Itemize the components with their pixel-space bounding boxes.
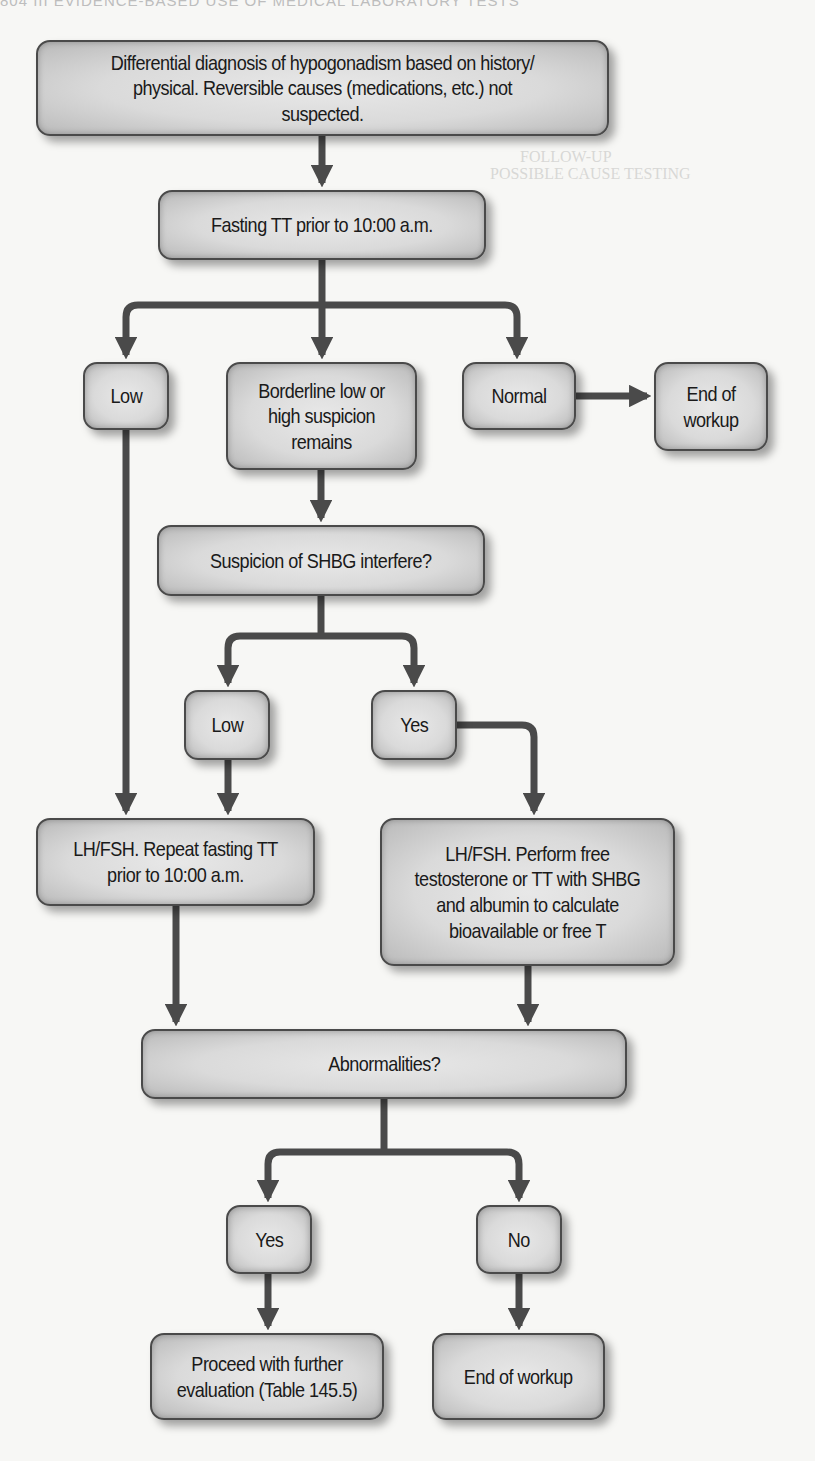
node-abnormalities-label: Abnormalities? xyxy=(328,1051,440,1077)
node-low-2: Low xyxy=(184,690,270,760)
node-proceed-label: Proceed with further evaluation (Table 1… xyxy=(173,1351,360,1402)
node-normal: Normal xyxy=(462,362,576,430)
node-fasting-tt-label: Fasting TT prior to 10:00 a.m. xyxy=(211,212,433,238)
node-shbg-label: Suspicion of SHBG interfere? xyxy=(210,548,431,574)
node-start: Differential diagnosis of hypogonadism b… xyxy=(36,40,609,136)
node-shbg: Suspicion of SHBG interfere? xyxy=(157,525,485,596)
node-lh-fsh-repeat: LH/FSH. Repeat fasting TT prior to 10:00… xyxy=(36,818,315,906)
edge-fasting-to-low xyxy=(126,305,322,355)
node-normal-label: Normal xyxy=(491,383,546,409)
edge-shbg-to-yes xyxy=(321,636,414,683)
edge-shbg-to-low xyxy=(228,636,321,683)
node-low-2-label: Low xyxy=(211,712,243,738)
edge-abnormal-to-yes xyxy=(268,1152,384,1198)
node-proceed: Proceed with further evaluation (Table 1… xyxy=(150,1333,384,1420)
node-end-workup-1: End of workup xyxy=(654,362,768,451)
node-yes-2: Yes xyxy=(226,1205,312,1274)
node-lh-fsh-free: LH/FSH. Perform free testosterone or TT … xyxy=(380,818,675,966)
node-low-1: Low xyxy=(83,362,169,430)
node-end-workup-2: End of workup xyxy=(432,1333,605,1420)
edge-abnormal-to-no xyxy=(384,1152,519,1198)
node-abnormalities: Abnormalities? xyxy=(141,1029,627,1099)
node-no-label: No xyxy=(508,1227,530,1253)
node-borderline-label: Borderline low or high suspicion remains xyxy=(250,378,394,455)
edge-yes-to-free xyxy=(457,725,534,811)
node-lh-fsh-repeat-label: LH/FSH. Repeat fasting TT prior to 10:00… xyxy=(69,836,281,887)
node-end-workup-1-label: End of workup xyxy=(671,381,752,432)
node-end-workup-2-label: End of workup xyxy=(464,1364,573,1390)
node-no: No xyxy=(476,1205,562,1274)
node-low-1-label: Low xyxy=(110,383,142,409)
node-fasting-tt: Fasting TT prior to 10:00 a.m. xyxy=(158,190,486,260)
edge-fasting-to-normal xyxy=(322,305,517,355)
node-start-label: Differential diagnosis of hypogonadism b… xyxy=(95,50,550,127)
node-lh-fsh-free-label: LH/FSH. Perform free testosterone or TT … xyxy=(413,841,643,943)
node-borderline: Borderline low or high suspicion remains xyxy=(226,362,417,470)
node-yes-1: Yes xyxy=(371,690,457,760)
node-yes-2-label: Yes xyxy=(255,1227,283,1253)
node-yes-1-label: Yes xyxy=(400,712,428,738)
